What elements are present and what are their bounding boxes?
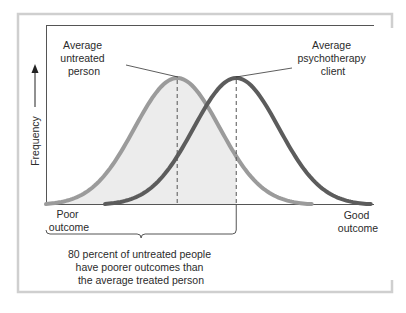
brace-text-line2: have poorer outcomes than [76, 261, 204, 273]
annotation-untreated-line1: Average [63, 39, 102, 51]
brace-annotation-text: 80 percent of untreated people have poor… [68, 248, 214, 286]
chart-svg: Frequency Average untreated person Avera… [0, 0, 406, 313]
annotation-psychotherapy-line3: client [321, 65, 346, 77]
brace-text-line1: 80 percent of untreated people [68, 248, 211, 260]
brace-text-line3: the average treated person [78, 274, 204, 286]
annotation-psychotherapy: Average psychotherapy client [297, 39, 368, 77]
annotation-psychotherapy-line1: Average [312, 39, 351, 51]
leader-line-psychotherapy [236, 68, 292, 77]
x-right-label-line1: Good [344, 209, 370, 221]
y-arrow-head-icon [32, 64, 39, 73]
y-axis-label-group: Frequency [29, 64, 41, 166]
x-axis-right-label: Good outcome [338, 209, 378, 234]
x-right-label-line2: outcome [338, 222, 378, 234]
y-axis-label: Frequency [29, 115, 41, 165]
shaded-region [46, 78, 236, 204]
x-axis-left-label: Poor outcome [49, 208, 89, 233]
annotation-untreated-line2: untreated [60, 52, 105, 64]
x-left-label-line2: outcome [49, 221, 89, 233]
annotation-untreated: Average untreated person [60, 39, 107, 77]
leader-line-untreated [126, 65, 178, 77]
annotation-psychotherapy-line2: psychotherapy [297, 52, 366, 64]
x-left-label-line1: Poor [56, 208, 79, 220]
annotation-untreated-line3: person [68, 65, 100, 77]
